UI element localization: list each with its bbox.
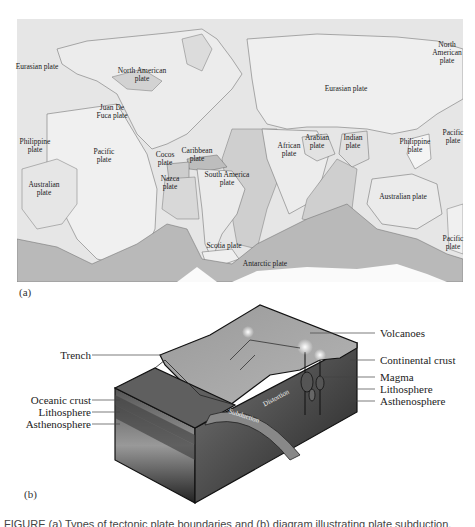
label-lithosphere-right: Lithosphere <box>380 383 433 395</box>
label-pacific-plate-east-upper: Pacific plate <box>438 129 468 145</box>
tectonic-plate-map: Eurasian plate North American plate Juan… <box>17 19 463 282</box>
label-antarctic-plate: Antarctic plate <box>243 260 287 268</box>
label-north-american-plate-east: North American plate <box>427 41 467 65</box>
label-volcanoes: Volcanoes <box>380 327 425 339</box>
label-north-american-plate: North American plate <box>112 67 172 83</box>
label-arabian-plate: Arabian plate <box>302 134 332 150</box>
subduction-block-diagram: Trench Oceanic crust Lithosphere Astheno… <box>0 300 475 510</box>
label-lithosphere-left: Lithosphere <box>38 406 91 418</box>
label-oceanic-crust: Oceanic crust <box>31 394 91 406</box>
label-philippine-plate-east: Philippine plate <box>395 138 435 154</box>
label-asthenosphere-right: Asthenosphere <box>380 395 445 407</box>
label-juan-de-fuca-plate: Juan De Fuca plate <box>92 104 132 120</box>
label-australian-plate-west: Australian plate <box>24 181 64 197</box>
label-scotia-plate: Scotia plate <box>206 242 241 250</box>
label-philippine-plate-west: Philippine plate <box>17 138 53 154</box>
label-indian-plate: Indian plate <box>338 134 368 150</box>
label-trench: Trench <box>60 349 91 361</box>
panel-a-label: (a) <box>19 286 31 298</box>
label-african-plate: African plate <box>274 142 304 158</box>
label-australian-plate-east: Australian plate <box>379 193 427 201</box>
label-south-america-plate: South America plate <box>197 171 257 187</box>
figure-caption: FIGURE (a) Types of tectonic plate bound… <box>0 512 475 527</box>
label-nazca-plate: Nazca plate <box>155 175 185 191</box>
label-caribbean-plate: Caribbean plate <box>177 147 217 163</box>
label-pacific-plate-west: Pacific plate <box>89 148 119 164</box>
label-eurasian-plate: Eurasian plate <box>325 85 368 93</box>
label-magma: Magma <box>380 371 414 383</box>
panel-b-label: (b) <box>24 488 37 500</box>
caption-text: FIGURE (a) Types of tectonic plate bound… <box>4 518 451 527</box>
label-cocos-plate: Cocos plate <box>150 151 180 167</box>
figure: Eurasian plate North American plate Juan… <box>0 0 475 527</box>
label-continental-crust: Continental crust <box>380 354 455 366</box>
label-pacific-plate-east-lower: Pacific plate <box>438 235 468 251</box>
label-eurasian-plate-west: Eurasian plate <box>16 63 59 71</box>
label-asthenosphere-left: Asthenosphere <box>26 418 91 430</box>
